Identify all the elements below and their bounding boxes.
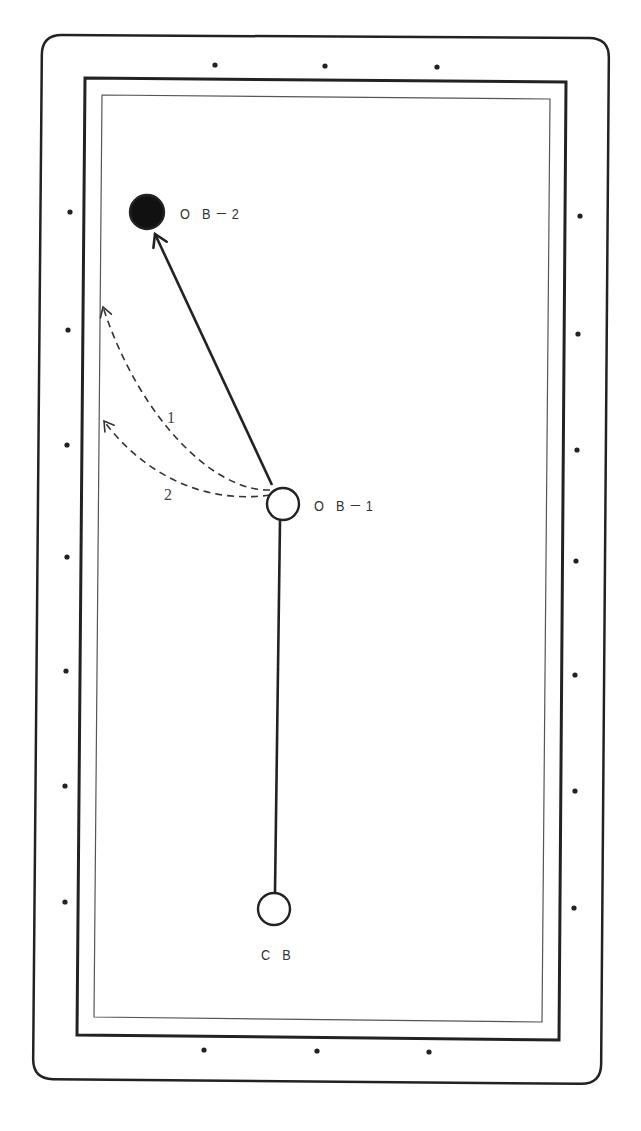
playfield-edge xyxy=(94,95,550,1022)
diamond-marker-icon xyxy=(67,209,72,214)
diamond-marker-icon xyxy=(64,554,69,559)
ball-label-ob2: O B－2 xyxy=(180,206,243,221)
diamond-marker-icon xyxy=(314,1048,319,1053)
ball-cb xyxy=(258,893,290,925)
cue-to-ob1-line xyxy=(275,521,280,892)
diamond-marker-icon xyxy=(571,905,576,910)
diamond-marker-icon xyxy=(65,327,70,332)
balls xyxy=(130,195,299,925)
diamond-marker-icon xyxy=(62,899,67,904)
table xyxy=(33,35,609,1084)
ob1-to-ob2-line xyxy=(155,234,272,485)
diamond-marker-icon xyxy=(322,63,327,68)
ball-ob-1 xyxy=(267,488,299,520)
path-1-dashed xyxy=(103,307,270,490)
outer-rail xyxy=(33,35,609,1084)
diamond-marker-icon xyxy=(573,558,578,563)
arrowhead-icon xyxy=(100,307,111,318)
diamond-marker-icon xyxy=(575,331,580,336)
path-label-2: 2 xyxy=(164,487,172,503)
path-2-dashed xyxy=(104,421,270,497)
shot-paths xyxy=(100,234,280,892)
diamond-marker-icon xyxy=(426,1049,431,1054)
diamond-marker-icon xyxy=(63,668,68,673)
path-label-1: 1 xyxy=(167,410,175,426)
diamond-marker-icon xyxy=(574,447,579,452)
table-drawing xyxy=(0,0,641,1131)
diamond-marker-icon xyxy=(572,788,577,793)
diamond-marker-icon xyxy=(572,672,577,677)
ball-label-ob1: O B－1 xyxy=(314,498,377,513)
diamond-marker-icon xyxy=(434,64,439,69)
diamond-marker-icon xyxy=(201,1047,206,1052)
billiard-diagram: O B－2 O B－1 C B 1 2 xyxy=(0,0,641,1131)
ball-label-cb: C B xyxy=(261,947,295,962)
ball-ob-2 xyxy=(130,195,164,229)
diamond-marker-icon xyxy=(577,213,582,218)
diamond-marker-icon xyxy=(64,442,69,447)
diamond-marker-icon xyxy=(62,783,67,788)
diamond-marker-icon xyxy=(212,62,217,67)
